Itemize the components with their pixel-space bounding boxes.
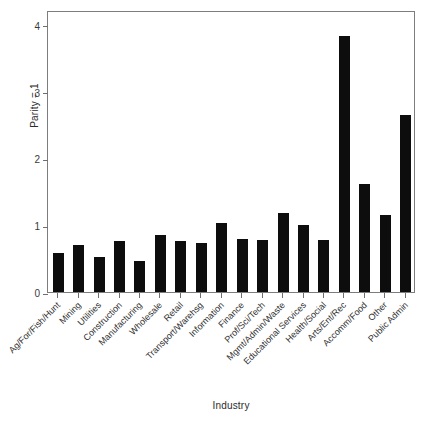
bar-slot — [68, 12, 88, 292]
bar — [73, 245, 84, 292]
bar — [134, 261, 145, 292]
x-axis-tick-mark — [384, 293, 385, 298]
plot-area: 01234 — [48, 12, 414, 292]
bar-slot — [375, 12, 395, 292]
x-axis-tick-mark — [180, 293, 181, 298]
bar-slot — [171, 12, 191, 292]
bar-slot — [212, 12, 232, 292]
bar-slot — [48, 12, 68, 292]
x-axis-title: Industry — [47, 400, 415, 411]
bar-slot — [130, 12, 150, 292]
y-tick-label: 4 — [34, 20, 40, 33]
x-axis-tick-mark — [241, 293, 242, 298]
bar — [278, 213, 289, 292]
bar — [155, 235, 166, 292]
y-tick-label: 2 — [34, 153, 40, 166]
bar — [400, 115, 411, 292]
bar — [298, 225, 309, 292]
bar-slot — [150, 12, 170, 292]
bar-slot — [191, 12, 211, 292]
bar — [237, 239, 248, 292]
bar-slot — [89, 12, 109, 292]
x-axis-tick-mark — [139, 293, 140, 298]
bar-slot — [355, 12, 375, 292]
plot-frame: 01234 — [47, 11, 415, 293]
x-axis-tick-mark — [364, 293, 365, 298]
bar — [318, 240, 329, 292]
y-tick-label: 0 — [34, 287, 40, 300]
x-axis-tick-mark — [119, 293, 120, 298]
x-axis-tick-mark — [282, 293, 283, 298]
bar — [339, 36, 350, 292]
x-axis-tick-mark — [343, 293, 344, 298]
x-axis-tick-mark — [78, 293, 79, 298]
x-axis-tick-mark — [303, 293, 304, 298]
x-axis-tick-mark — [323, 293, 324, 298]
x-axis-tick-mark — [57, 293, 58, 298]
bar-slot — [396, 12, 416, 292]
x-axis-tick-mark — [98, 293, 99, 298]
x-axis-tick-mark — [405, 293, 406, 298]
y-tick-mark — [43, 294, 48, 295]
bar-slot — [293, 12, 313, 292]
bar-slot — [252, 12, 272, 292]
bar-slot — [109, 12, 129, 292]
bar-slot — [232, 12, 252, 292]
bar — [380, 215, 391, 292]
y-tick-label: 3 — [34, 87, 40, 100]
x-axis-tick-mark — [159, 293, 160, 298]
bar-slot — [314, 12, 334, 292]
bar — [196, 243, 207, 292]
bar-slot — [334, 12, 354, 292]
bar — [114, 241, 125, 292]
bar — [175, 241, 186, 292]
x-axis-tick-mark — [262, 293, 263, 298]
bar-slot — [273, 12, 293, 292]
bar — [216, 223, 227, 292]
y-tick-label: 1 — [34, 220, 40, 233]
bar — [53, 253, 64, 292]
bar — [257, 240, 268, 292]
bar-chart-figure: Parity = 1 01234 Ag/For/Fish/HuntMiningU… — [0, 0, 431, 425]
bar — [94, 257, 105, 292]
x-axis-tick-mark — [221, 293, 222, 298]
bar — [359, 184, 370, 292]
x-axis-tick-mark — [200, 293, 201, 298]
